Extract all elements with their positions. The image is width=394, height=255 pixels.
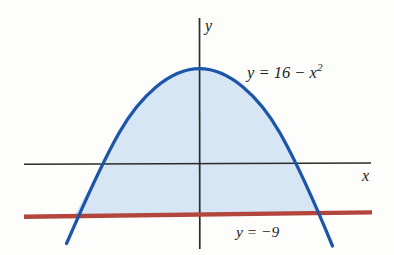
line-equation-annotation: y = −9: [236, 224, 279, 240]
figure-canvas: y x y = 16 − x2 y = −9: [0, 0, 394, 255]
curve-equation-exponent: 2: [317, 61, 323, 73]
x-axis-line: [24, 163, 371, 164]
x-axis-label: x: [362, 168, 369, 184]
chart-plot-area: [0, 0, 394, 255]
y-axis-label: y: [205, 18, 212, 34]
curve-equation-annotation: y = 16 − x2: [247, 62, 323, 81]
curve-equation-base: y = 16 − x: [247, 63, 317, 82]
